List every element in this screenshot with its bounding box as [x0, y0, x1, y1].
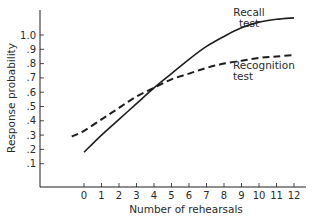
- y-tick-label: .8: [26, 58, 36, 69]
- x-tick-label: 2: [116, 190, 122, 201]
- x-axis-title: Number of rehearsals: [129, 203, 243, 215]
- y-tick-label: .2: [26, 144, 36, 155]
- y-tick-label: .4: [26, 115, 36, 126]
- x-axis-ticks: 0123456789101112: [81, 183, 301, 201]
- x-tick-label: 6: [186, 190, 192, 201]
- y-axis: .1.2.3.4.5.6.7.8.91.0 Response probabili…: [5, 10, 44, 187]
- annotation-recall: Recall test: [233, 6, 264, 29]
- y-tick-label: .1: [26, 158, 36, 169]
- y-tick-label: .3: [26, 130, 36, 141]
- y-tick-label: .9: [26, 44, 36, 55]
- annotation-recognition-line2: test: [233, 70, 253, 82]
- x-tick-label: 12: [288, 190, 301, 201]
- x-tick-label: 1: [98, 190, 104, 201]
- y-tick-label: .5: [26, 101, 36, 112]
- x-tick-label: 7: [203, 190, 209, 201]
- series-layer: [72, 18, 294, 152]
- line-chart: .1.2.3.4.5.6.7.8.91.0 Response probabili…: [0, 0, 314, 217]
- annotation-recall-line2: test: [239, 17, 259, 29]
- x-tick-label: 10: [253, 190, 266, 201]
- y-tick-label: .6: [26, 87, 36, 98]
- x-tick-label: 8: [221, 190, 227, 201]
- x-tick-label: 9: [238, 190, 244, 201]
- x-tick-label: 0: [81, 190, 87, 201]
- x-tick-label: 5: [168, 190, 174, 201]
- x-tick-label: 11: [270, 190, 283, 201]
- x-tick-label: 3: [133, 190, 139, 201]
- y-axis-title: Response probability: [5, 43, 17, 153]
- y-tick-label: 1.0: [20, 30, 36, 41]
- x-axis: 0123456789101112 Number of rehearsals: [40, 183, 306, 215]
- annotation-recognition: Recognition test: [233, 59, 295, 82]
- y-tick-label: .7: [26, 72, 36, 83]
- x-tick-label: 4: [151, 190, 157, 201]
- recall-test-line: [84, 18, 294, 152]
